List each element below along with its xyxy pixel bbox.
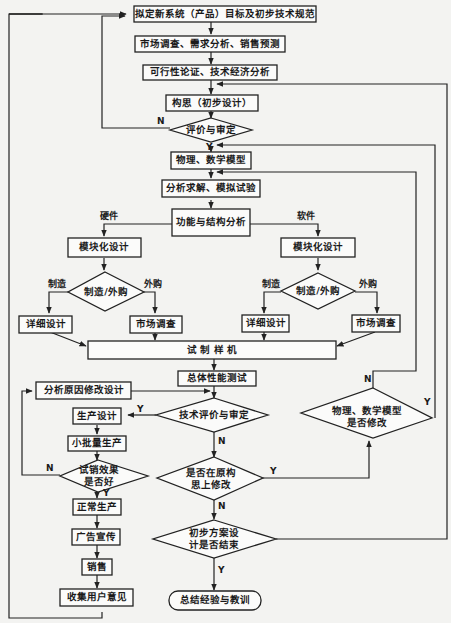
edge-label-no: N <box>218 501 226 511</box>
decision-hw-make-buy: 制造/外购 <box>68 272 144 311</box>
edge-label-yes: Y <box>423 397 431 407</box>
node-fix-design: 分析原因修改设计 <box>36 382 131 399</box>
node-production-design: 生产设计 <box>73 408 121 424</box>
svg-text:小批量生产: 小批量生产 <box>71 437 122 448</box>
node-performance-test: 总体性能测试 <box>178 371 256 386</box>
edge-label-no: N <box>46 463 54 473</box>
node-feasibility: 可行性论证、技术经济分析 <box>143 65 277 80</box>
svg-text:广告宣传: 广告宣传 <box>76 531 116 542</box>
svg-text:可行性论证、技术经济分析: 可行性论证、技术经济分析 <box>150 66 270 77</box>
svg-text:详细设计: 详细设计 <box>246 317 286 328</box>
svg-text:试销效果: 试销效果 <box>79 464 119 475</box>
svg-text:市场调查: 市场调查 <box>136 318 176 329</box>
decision-modify-original: 是否在原构 思上修改 <box>157 457 263 500</box>
node-sales: 销售 <box>82 559 112 575</box>
svg-text:生产设计: 生产设计 <box>77 410 117 421</box>
decision-review: 评价与审定 <box>170 118 252 142</box>
decision-tech-review: 技术评价与审定 <box>156 398 268 432</box>
decision-modify-model: 物理、数学模型 是否修改 <box>301 388 432 438</box>
svg-text:模块化设计: 模块化设计 <box>79 241 129 252</box>
node-collect-feedback: 收集用户意见 <box>60 589 133 606</box>
flowchart: 拟定新系统（产品）目标及初步技术规范 市场调查、需求分析、销售预测 可行性论证、… <box>0 0 451 623</box>
svg-text:计是否结束: 计是否结束 <box>189 539 239 550</box>
edge-label-hardware: 硬件 <box>100 210 118 221</box>
svg-text:模块化设计: 模块化设计 <box>293 241 343 252</box>
node-normal-production: 正常生产 <box>73 499 121 515</box>
edge-label-make: 制造 <box>262 278 281 289</box>
edge-label-yes: Y <box>102 488 110 498</box>
svg-text:市场调查: 市场调查 <box>356 317 396 328</box>
svg-text:思上修改: 思上修改 <box>191 479 231 490</box>
edge-label-no: N <box>157 116 165 126</box>
svg-text:初步方案设: 初步方案设 <box>189 527 239 538</box>
node-hw-market: 市场调查 <box>130 316 182 333</box>
svg-text:市场调查、需求分析、销售预测: 市场调查、需求分析、销售预测 <box>140 38 280 49</box>
node-prototype: 试 制 样 机 <box>88 341 336 359</box>
svg-text:详细设计: 详细设计 <box>26 318 66 329</box>
svg-text:总结经验与教训: 总结经验与教训 <box>180 594 250 605</box>
edge-label-yes: Y <box>217 565 225 575</box>
svg-text:物理、数学模型: 物理、数学模型 <box>176 154 246 165</box>
edge-label-buy: 外购 <box>143 278 162 289</box>
node-concept: 构思（初步设计） <box>166 95 258 111</box>
svg-text:是否好: 是否好 <box>83 476 114 487</box>
node-small-batch: 小批量生产 <box>68 436 126 451</box>
svg-text:拟定新系统（产品）目标及初步技术规范: 拟定新系统（产品）目标及初步技术规范 <box>135 8 315 19</box>
svg-text:是否在原构: 是否在原构 <box>185 467 236 478</box>
svg-text:分析求解、模拟试验: 分析求解、模拟试验 <box>166 182 256 193</box>
node-sw-market: 市场调查 <box>352 315 400 332</box>
node-simulation: 分析求解、模拟试验 <box>162 180 260 197</box>
edge-label-yes: Y <box>136 404 144 414</box>
terminal-summary: 总结经验与教训 <box>169 591 261 610</box>
svg-text:收集用户意见: 收集用户意见 <box>67 591 127 602</box>
edge-label-yes: Y <box>269 466 277 476</box>
edge-label-software: 软件 <box>297 210 315 221</box>
svg-text:功能与结构分析: 功能与结构分析 <box>176 216 246 227</box>
decision-design-finished: 初步方案设 计是否结束 <box>153 520 276 558</box>
svg-text:是否修改: 是否修改 <box>346 417 387 428</box>
svg-text:分析原因修改设计: 分析原因修改设计 <box>44 384 124 395</box>
node-hw-detail: 详细设计 <box>19 316 72 333</box>
svg-text:物理、数学模型: 物理、数学模型 <box>332 405 402 416</box>
node-market-research: 市场调查、需求分析、销售预测 <box>135 36 285 52</box>
svg-text:总体性能测试: 总体性能测试 <box>187 372 247 383</box>
svg-text:评价与审定: 评价与审定 <box>186 124 236 135</box>
node-hw-modular: 模块化设计 <box>68 238 141 257</box>
edge-label-make: 制造 <box>48 278 67 289</box>
node-sw-detail: 详细设计 <box>242 315 289 332</box>
edge-label-buy: 外购 <box>358 278 377 289</box>
svg-text:制造/外购: 制造/外购 <box>296 285 339 296</box>
node-function-structure: 功能与结构分析 <box>172 209 250 236</box>
svg-text:试 制 样 机: 试 制 样 机 <box>187 344 237 355</box>
node-goal: 拟定新系统（产品）目标及初步技术规范 <box>134 6 316 22</box>
node-model: 物理、数学模型 <box>171 152 251 169</box>
node-sw-modular: 模块化设计 <box>281 238 355 257</box>
decision-sw-make-buy: 制造/外购 <box>281 273 355 309</box>
edge-label-no: N <box>218 436 226 446</box>
svg-text:销售: 销售 <box>87 561 107 572</box>
svg-text:正常生产: 正常生产 <box>77 501 117 512</box>
node-advertising: 广告宣传 <box>72 529 120 545</box>
svg-text:制造/外购: 制造/外购 <box>84 286 127 297</box>
edge-label-yes: Y <box>205 142 213 152</box>
edge-label-no: N <box>364 374 372 384</box>
svg-text:构思（初步设计）: 构思（初步设计） <box>172 97 252 108</box>
svg-text:技术评价与审定: 技术评价与审定 <box>179 409 249 420</box>
